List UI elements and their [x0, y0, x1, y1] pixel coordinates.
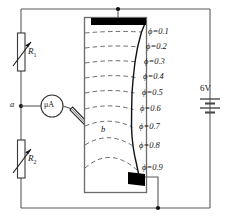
- phi-0-9-label: ϕ=0.9: [142, 163, 163, 172]
- resistor-r1-subscript: 1: [34, 52, 37, 58]
- electrode-top: [91, 7, 146, 25]
- resistor-r2-subscript: 2: [34, 159, 37, 165]
- phi-0-2-label: ϕ=0.2: [146, 42, 167, 51]
- circuit-figure: ϕ=0.1 ϕ=0.2 ϕ=0.3 ϕ=0.4 ϕ=0.5 ϕ=0.6 ϕ=0.…: [0, 0, 230, 224]
- electrode-top-plate: [91, 18, 146, 25]
- probe-b-label: b: [101, 125, 105, 134]
- junction-dot-top: [116, 7, 120, 11]
- battery-label: 6V: [200, 84, 211, 93]
- phi-0-6-label: ϕ=0.6: [140, 104, 161, 113]
- circuit-diagram-svg: [0, 0, 230, 224]
- phi-0-7-label: ϕ=0.7: [139, 122, 160, 131]
- electrode-bottom-plate: [128, 172, 145, 186]
- phi-0-5-label: ϕ=0.5: [142, 88, 163, 97]
- phi-0-8-label: ϕ=0.8: [139, 141, 160, 150]
- microammeter-label: μA: [44, 101, 54, 109]
- resistor-r1-label: R1: [28, 47, 37, 58]
- phi-0-4-label: ϕ=0.4: [143, 72, 164, 81]
- junction-dot-bottom: [156, 206, 160, 210]
- phi-0-3-label: ϕ=0.3: [144, 57, 165, 66]
- node-a-label: a: [10, 100, 14, 109]
- resistor-r2-label: R2: [28, 154, 37, 165]
- phi-0-1-label: ϕ=0.1: [148, 27, 169, 36]
